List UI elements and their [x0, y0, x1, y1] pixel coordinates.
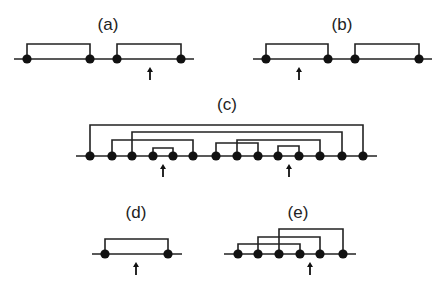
node-dot [233, 249, 242, 258]
node-dot [107, 151, 116, 160]
node-dot [295, 249, 304, 258]
panel-label-a: (a) [98, 15, 119, 34]
node-dot [315, 151, 324, 160]
node-dot [253, 151, 262, 160]
node-dot [261, 54, 270, 63]
panel-label-d: (d) [126, 203, 147, 222]
node-dot [273, 151, 282, 160]
node-dot [315, 249, 324, 258]
panel-label-b: (b) [332, 15, 353, 34]
panel-b: (b) [253, 15, 432, 80]
panel-c: (c) [76, 95, 377, 177]
node-dot [358, 151, 367, 160]
bracket-connector [266, 44, 328, 59]
node-dot [112, 54, 121, 63]
node-dot [22, 54, 31, 63]
node-dot [350, 54, 359, 63]
bracket-connector [117, 44, 181, 59]
up-arrow-icon [307, 262, 313, 267]
node-dot [100, 249, 109, 258]
panel-label-e: (e) [288, 203, 309, 222]
node-dot [294, 151, 303, 160]
node-dot [148, 151, 157, 160]
node-dot [127, 151, 136, 160]
node-dot [163, 249, 172, 258]
node-dot [211, 151, 220, 160]
up-arrow-icon [147, 67, 153, 72]
panel-d: (d) [92, 203, 182, 275]
panel-e: (e) [224, 203, 356, 275]
node-dot [85, 54, 94, 63]
panel-a: (a) [14, 15, 194, 80]
panel-label-c: (c) [217, 95, 237, 114]
bracket-connector [238, 244, 300, 254]
up-arrow-icon [160, 164, 166, 169]
node-dot [188, 151, 197, 160]
up-arrow-icon [296, 67, 302, 72]
bracket-diagram: (a) (b) (c) (d) (e) [0, 0, 447, 285]
node-dot [337, 151, 346, 160]
bracket-connector [279, 229, 343, 254]
bracket-connector [355, 44, 419, 59]
node-dot [168, 151, 177, 160]
node-dot [85, 151, 94, 160]
node-dot [253, 249, 262, 258]
node-dot [232, 151, 241, 160]
node-dot [338, 249, 347, 258]
up-arrow-icon [286, 164, 292, 169]
node-dot [414, 54, 423, 63]
node-dot [323, 54, 332, 63]
bracket-connector [258, 237, 320, 254]
up-arrow-icon [133, 262, 139, 267]
node-dot [274, 249, 283, 258]
bracket-connector [105, 239, 168, 254]
bracket-connector [27, 44, 90, 59]
node-dot [176, 54, 185, 63]
